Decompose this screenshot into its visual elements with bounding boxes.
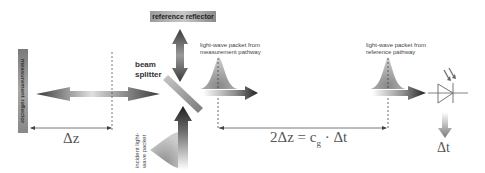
interferometer-diagram: reference reflector measurement reflecto…	[0, 0, 485, 173]
delta-t-label: Δt	[437, 140, 450, 156]
incident-packet-label-line1: incident light-	[134, 133, 141, 168]
measurement-packet-label-line1: light-wave packet from	[200, 42, 261, 49]
reference-packet-label: light-wave packet from reference pathway	[366, 42, 426, 56]
measurement-reflector: measurement reflector	[18, 49, 28, 133]
reference-packet-label-line2: reference pathway	[366, 49, 426, 56]
diagram-graphics	[0, 0, 485, 173]
incident-wave-packet	[150, 132, 178, 168]
beam-splitter-label-line1: beam	[135, 60, 162, 70]
measurement-packet-label-line2: measurement pathway	[200, 49, 261, 56]
delta-z-label: Δz	[63, 130, 79, 147]
measurement-path-arrow	[36, 87, 160, 101]
detector-output-arrow	[438, 112, 452, 138]
reference-path-arrow	[172, 29, 188, 82]
beam-splitter-label: beam splitter	[135, 60, 162, 80]
photodiode-icon	[428, 68, 468, 103]
measurement-packet-label: light-wave packet from measurement pathw…	[200, 42, 261, 56]
reference-packet-label-line1: light-wave packet from	[366, 42, 426, 49]
incident-packet-label: incident light- wave packet	[134, 133, 148, 168]
equation-lhs: 2Δz = c	[270, 129, 316, 145]
equation-rhs: · Δt	[321, 129, 347, 145]
measurement-reflector-label: measurement reflector	[20, 59, 26, 124]
reference-reflector-label: reference reflector	[150, 11, 216, 22]
path-difference-equation: 2Δz = cg · Δt	[270, 129, 347, 148]
beam-splitter-label-line2: splitter	[135, 70, 162, 80]
incident-packet-label-line2: wave packet	[141, 133, 148, 168]
reference-reflector: reference reflector	[150, 11, 216, 22]
